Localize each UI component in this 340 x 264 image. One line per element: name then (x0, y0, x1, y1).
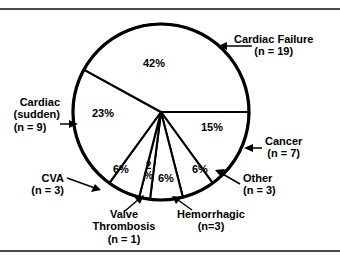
callout-cva-line1: CVA (0, 172, 64, 184)
callout-valve-thrombosis: Valve Thrombosis (n = 1) (76, 208, 172, 245)
slice-pct-cardiac-failure: 42% (143, 58, 165, 69)
callout-valve-thrombosis-line2: Thrombosis (76, 220, 172, 232)
callout-cardiac-sudden-line1: Cardiac (0, 96, 60, 108)
callout-cancer: Cancer (n = 7) (265, 135, 302, 160)
callout-cva: CVA (n = 3) (0, 172, 64, 197)
leader-cva (67, 178, 101, 192)
callout-cancer-line1: Cancer (265, 135, 302, 147)
slice-pct-other: 6% (192, 164, 208, 175)
callout-valve-thrombosis-line3: (n = 1) (76, 233, 172, 245)
callout-cardiac-sudden-line2: (sudden) (0, 108, 60, 120)
slice-pct-hemorrhagic: 6% (158, 173, 174, 184)
callout-cancer-line2: (n = 7) (265, 147, 302, 159)
callout-valve-thrombosis-line1: Valve (76, 208, 172, 220)
slice-pct-cva: 6% (113, 164, 129, 175)
callout-other: Other (n = 3) (243, 172, 276, 197)
callout-hemorrhagic: Hemorrhagic (n=3) (165, 208, 257, 233)
slice-pct-valve-thrombosis: 2 % (144, 161, 153, 180)
callout-hemorrhagic-line2: (n=3) (165, 220, 257, 232)
callout-cardiac-failure-line2: (n = 19) (234, 45, 313, 57)
slice-pct-valve-thrombosis-symbol: % (144, 171, 153, 181)
pie-chart-figure: 42% 23% 15% 6% 2 % 6% 6% Cardiac Failure… (0, 0, 340, 264)
callout-cardiac-failure-line1: Cardiac Failure (234, 33, 313, 45)
callout-hemorrhagic-line1: Hemorrhagic (165, 208, 257, 220)
callout-cardiac-sudden: Cardiac (sudden) (n = 9) (0, 96, 60, 133)
callout-cardiac-failure: Cardiac Failure (n = 19) (234, 33, 313, 58)
callout-other-line1: Other (243, 172, 276, 184)
callout-cva-line2: (n = 3) (0, 184, 64, 196)
slice-pct-cardiac-sudden: 23% (92, 108, 114, 119)
slice-pct-cancer: 15% (201, 122, 223, 133)
callout-other-line2: (n = 3) (243, 184, 276, 196)
leader-cancer (244, 144, 262, 152)
callout-cardiac-sudden-line3: (n = 9) (0, 121, 60, 133)
